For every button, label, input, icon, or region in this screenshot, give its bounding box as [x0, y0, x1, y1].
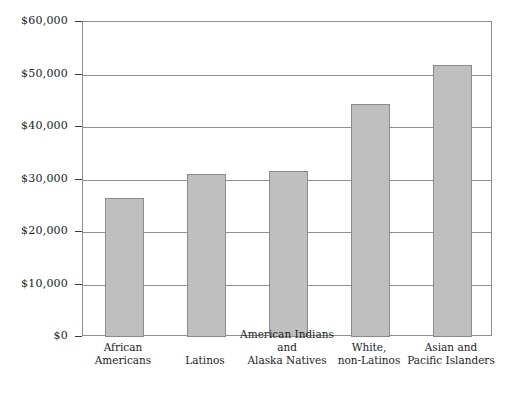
y-axis-label: $60,000 — [0, 15, 68, 26]
x-axis-label-line: Asian and — [391, 341, 511, 354]
bar — [433, 65, 472, 337]
gridline — [83, 75, 491, 76]
plot-area — [82, 21, 492, 336]
gridline — [83, 127, 491, 128]
bar — [105, 198, 144, 337]
page-footer-artifact — [180, 380, 513, 390]
y-axis-tick — [75, 231, 82, 232]
y-axis-tick — [75, 284, 82, 285]
y-axis-label: $40,000 — [0, 120, 68, 131]
x-axis-category-label: Asian andPacific Islanders — [391, 341, 511, 367]
bar-chart: $0$10,000$20,000$30,000$40,000$50,000$60… — [0, 0, 513, 395]
y-axis-label: $0 — [0, 330, 68, 341]
y-axis-tick — [75, 74, 82, 75]
y-axis-tick — [75, 126, 82, 127]
y-axis-tick — [75, 179, 82, 180]
y-axis-label: $30,000 — [0, 173, 68, 184]
bar — [351, 104, 390, 337]
y-axis-tick — [75, 21, 82, 22]
x-axis-label-line: Pacific Islanders — [391, 354, 511, 367]
y-axis-label: $20,000 — [0, 225, 68, 236]
y-axis-tick — [75, 336, 82, 337]
y-axis-label: $50,000 — [0, 68, 68, 79]
bar — [269, 171, 308, 337]
x-axis-label-line: African — [63, 341, 183, 354]
x-axis-label-line: American Indians — [227, 328, 347, 341]
y-axis-label: $10,000 — [0, 278, 68, 289]
bar — [187, 174, 226, 337]
